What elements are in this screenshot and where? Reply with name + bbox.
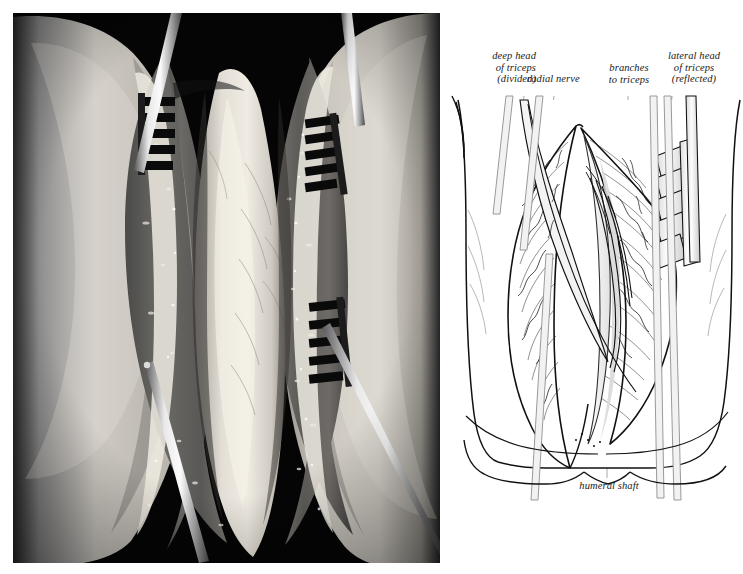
label-line: of triceps (652, 62, 736, 74)
label-line: deep head (461, 50, 536, 62)
label-line: of triceps (461, 62, 536, 74)
label-line: radial nerve (527, 73, 601, 85)
label-lateral-head-of-triceps: lateral head of triceps (reflected) (652, 50, 736, 85)
label-deep-head-of-triceps: deep head of triceps (divided) (461, 50, 536, 85)
intraoperative-photograph (13, 13, 440, 563)
label-line: lateral head (652, 50, 736, 62)
label-line: branches (601, 62, 657, 74)
label-branches-to-triceps: branches to triceps (601, 62, 657, 85)
label-line: (divided) (461, 73, 536, 85)
photo-vignette (13, 13, 440, 563)
label-line: humeral shaft (553, 480, 665, 492)
surgical-approach-figure: deep head of triceps (divided) radial ne… (0, 0, 743, 574)
label-line: to triceps (601, 74, 657, 86)
label-radial-nerve: radial nerve (527, 73, 601, 85)
label-humeral-shaft: humeral shaft (553, 480, 665, 492)
photograph-canvas (13, 13, 440, 563)
label-line: (reflected) (652, 73, 736, 85)
